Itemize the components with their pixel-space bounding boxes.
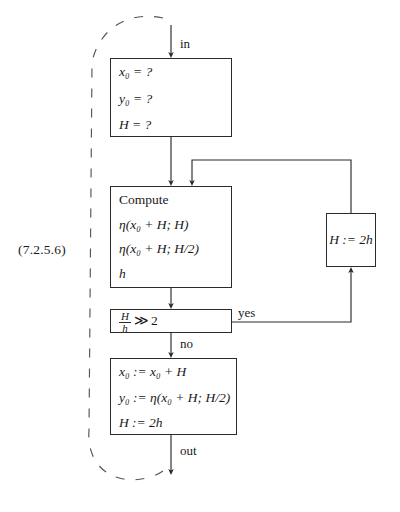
equation-number: (7.2.5.6) <box>18 242 66 258</box>
decision-fraction: H h <box>119 311 131 334</box>
initialization-box: x₀ = ? y₀ = ? H = ? <box>110 58 232 137</box>
compute-title: Compute <box>119 193 227 207</box>
edge-label-out: out <box>180 443 197 459</box>
decision-threshold: 2 <box>151 313 158 328</box>
step-reset-box-content: H := 2h <box>327 214 375 266</box>
update-box-content: x₀ := x₀ + H y₀ := η(x₀ + H; H/2) H := 2… <box>119 365 232 432</box>
decision-box: H h ≫2 <box>110 309 232 333</box>
compute-box-content: Compute η(x₀ + H; H) η(x₀ + H; H/2) h <box>119 193 227 285</box>
init-line-2: y₀ = ? <box>119 92 227 106</box>
update-line-2: y₀ := η(x₀ + H; H/2) <box>119 391 232 405</box>
flowchart-figure: (7.2.5.6) x₀ = ? y₀ = ? H = ? Compute η(… <box>0 0 400 512</box>
edge-label-no: no <box>180 336 193 352</box>
init-line-3: H = ? <box>119 118 227 132</box>
update-box: x₀ := x₀ + H y₀ := η(x₀ + H; H/2) H := 2… <box>110 358 237 435</box>
init-line-1: x₀ = ? <box>119 65 227 79</box>
compute-line-1: η(x₀ + H; H) <box>119 218 227 232</box>
decision-denominator: h <box>119 323 131 334</box>
initialization-box-content: x₀ = ? y₀ = ? H = ? <box>119 65 227 134</box>
update-line-3: H := 2h <box>119 416 232 430</box>
edge-label-in: in <box>180 36 190 52</box>
compute-box: Compute η(x₀ + H; H) η(x₀ + H; H/2) h <box>110 186 232 288</box>
update-line-1: x₀ := x₀ + H <box>119 365 232 379</box>
step-reset-text: H := 2h <box>329 233 373 247</box>
compute-line-2: η(x₀ + H; H/2) <box>119 242 227 256</box>
edge-label-yes: yes <box>238 305 255 321</box>
much-greater-than-icon: ≫ <box>131 313 151 328</box>
step-reset-box: H := 2h <box>326 213 376 267</box>
compute-line-3: h <box>119 267 227 281</box>
decision-box-content: H h ≫2 <box>119 311 227 330</box>
